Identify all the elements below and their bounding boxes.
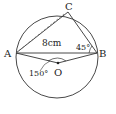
label-c: C <box>65 1 73 12</box>
segment-ao <box>16 53 58 63</box>
circle <box>16 16 98 98</box>
geometry-diagram: A B C O 8cm 45° 150° <box>0 0 116 114</box>
label-o: O <box>54 67 62 78</box>
label-angle-b: 45° <box>76 43 90 52</box>
angle-arc-aob <box>48 58 66 61</box>
segment-ob <box>58 53 97 63</box>
label-b: B <box>99 48 106 59</box>
label-ac-length: 8cm <box>42 38 62 48</box>
center-point-o <box>57 62 60 65</box>
label-a: A <box>3 48 12 59</box>
label-angle-aob: 150° <box>29 69 48 78</box>
